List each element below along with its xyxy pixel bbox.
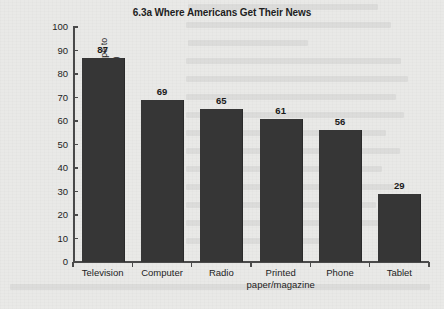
y-axis-tick-label: 90 — [44, 46, 68, 56]
bar — [200, 109, 243, 262]
bar-value-label: 69 — [137, 87, 187, 97]
y-axis-tick-label: 40 — [44, 163, 68, 173]
y-axis-tick-label: 60 — [44, 116, 68, 126]
y-axis-tick-label: 100 — [44, 22, 68, 32]
y-axis-tick-label: 0 — [44, 257, 68, 267]
bar — [82, 58, 125, 262]
bar — [141, 100, 184, 262]
bar — [378, 194, 421, 262]
x-axis-category-label-line: Tablet — [354, 267, 444, 279]
bar — [319, 130, 362, 262]
bar-value-label: 87 — [78, 45, 128, 55]
y-axis-tick-label: 30 — [44, 187, 68, 197]
bar-value-label: 29 — [374, 181, 424, 191]
bar-value-label: 61 — [256, 106, 306, 116]
chart-page: 6.3a Where Americans Get Their News 1009… — [0, 0, 444, 309]
y-axis-tick-label: 20 — [44, 210, 68, 220]
x-axis-category-label-line: paper/magazine — [236, 279, 326, 291]
bar — [260, 119, 303, 262]
y-axis-tick-label: 50 — [44, 140, 68, 150]
y-axis-tick-label: 70 — [44, 93, 68, 103]
bar-value-label: 56 — [315, 117, 365, 127]
x-axis-category-label: Tablet — [354, 267, 444, 279]
y-axis-tick-labels: 1009080706050403020100 — [44, 0, 68, 309]
y-axis-tick-label: 80 — [44, 69, 68, 79]
x-axis-category-labels: TelevisionComputerRadioPrintedpaper/maga… — [73, 267, 429, 309]
bar-value-label: 65 — [196, 96, 246, 106]
y-axis-tick-label: 10 — [44, 234, 68, 244]
bar-series: 876965615629 — [73, 27, 429, 262]
